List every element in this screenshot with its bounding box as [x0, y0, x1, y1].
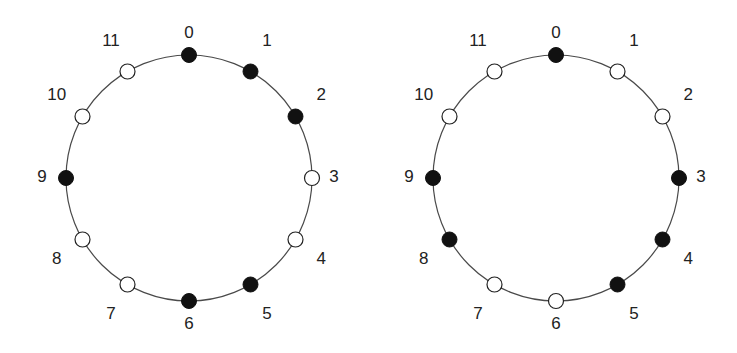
filled-node-0: [182, 48, 197, 63]
position-label-2: 2: [683, 85, 692, 104]
circle-outline: [433, 55, 679, 301]
position-label-6: 6: [184, 314, 193, 333]
position-label-6: 6: [551, 314, 560, 333]
position-label-10: 10: [47, 85, 66, 104]
position-label-5: 5: [262, 304, 271, 323]
position-label-4: 4: [316, 249, 325, 268]
open-node-7: [487, 277, 502, 292]
filled-node-0: [549, 48, 564, 63]
open-node-7: [120, 277, 135, 292]
position-label-2: 2: [316, 85, 325, 104]
filled-node-2: [288, 109, 303, 124]
open-node-1: [610, 64, 625, 79]
filled-node-1: [243, 64, 258, 79]
position-label-8: 8: [419, 249, 428, 268]
position-label-9: 9: [37, 167, 46, 186]
left-circle: 01234567891011: [37, 23, 338, 333]
position-label-1: 1: [262, 31, 271, 50]
position-label-3: 3: [329, 167, 338, 186]
open-node-10: [75, 109, 90, 124]
position-label-8: 8: [52, 249, 61, 268]
open-node-11: [487, 64, 502, 79]
open-node-10: [442, 109, 457, 124]
open-node-6: [549, 294, 564, 309]
filled-node-4: [655, 232, 670, 247]
circle-outline: [66, 55, 312, 301]
filled-node-9: [59, 171, 74, 186]
position-label-11: 11: [102, 31, 120, 50]
filled-node-3: [672, 171, 687, 186]
position-label-0: 0: [184, 23, 193, 42]
filled-node-8: [442, 232, 457, 247]
filled-node-5: [610, 277, 625, 292]
position-label-7: 7: [473, 304, 482, 323]
position-label-1: 1: [629, 31, 638, 50]
position-label-3: 3: [696, 167, 705, 186]
open-node-2: [655, 109, 670, 124]
open-node-8: [75, 232, 90, 247]
filled-node-5: [243, 277, 258, 292]
position-label-5: 5: [629, 304, 638, 323]
pitch-class-circle-diagram: 01234567891011 01234567891011: [0, 0, 737, 353]
position-label-0: 0: [551, 23, 560, 42]
filled-node-9: [426, 171, 441, 186]
right-circle: 01234567891011: [404, 23, 705, 333]
position-label-4: 4: [683, 249, 692, 268]
position-label-10: 10: [414, 85, 433, 104]
position-label-7: 7: [106, 304, 115, 323]
open-node-4: [288, 232, 303, 247]
filled-node-6: [182, 294, 197, 309]
position-label-11: 11: [469, 31, 487, 50]
open-node-11: [120, 64, 135, 79]
position-label-9: 9: [404, 167, 413, 186]
open-node-3: [305, 171, 320, 186]
